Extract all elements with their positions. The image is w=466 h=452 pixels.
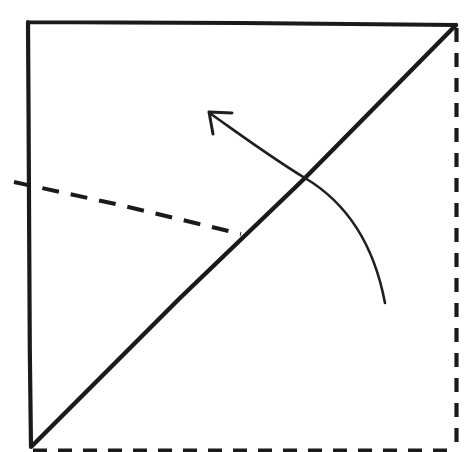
origami-figure-svg <box>0 0 466 452</box>
figure-background <box>0 0 466 452</box>
origami-diagram <box>0 0 466 452</box>
